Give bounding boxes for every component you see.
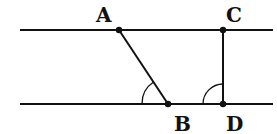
point-C	[220, 27, 226, 33]
label-B: B	[174, 112, 191, 134]
angle-CDB-mark	[203, 84, 223, 104]
point-B	[165, 101, 171, 107]
point-A	[116, 27, 122, 33]
geometry-diagram: A B C D	[0, 0, 277, 134]
diagram-canvas: A B C D	[0, 0, 277, 134]
angle-ABD-mark	[142, 82, 154, 104]
label-A: A	[95, 3, 112, 27]
label-C: C	[226, 3, 242, 27]
label-D: D	[226, 112, 243, 134]
point-D	[220, 101, 226, 107]
